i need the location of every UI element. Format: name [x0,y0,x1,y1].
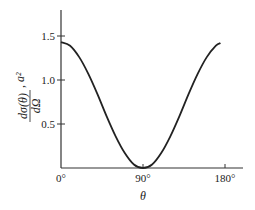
chart: 0.51.01.5 0°90°180° θ dσ(θ) dΩ , a² [0,0,255,210]
x-tick-label: 90° [135,172,150,184]
y-axis-title-suffix: , a² [13,72,27,88]
y-axis-title-denominator: dΩ [29,98,43,113]
y-tick-label: 1.0 [41,74,55,86]
y-axis-title-numerator: dσ(θ) [16,93,30,119]
y-tick-label: 0.5 [41,118,55,130]
x-tick-label: 180° [215,172,236,184]
cross-section-curve [61,42,220,168]
y-tick-label: 1.5 [41,30,55,42]
x-tick-label: 0° [56,172,66,184]
series-layer [61,42,220,168]
x-axis-title: θ [140,189,146,203]
y-axis-title: dσ(θ) dΩ , a² [13,72,43,122]
